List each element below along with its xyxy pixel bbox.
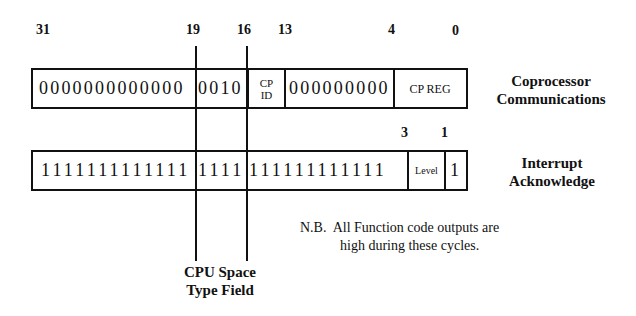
cp-id-line2: ID: [261, 89, 273, 101]
interrupt-acknowledge-label: Interrupt Acknowledge: [488, 154, 616, 190]
cp-id-field: CP ID: [247, 70, 286, 107]
type-field-line-bit16: [246, 46, 248, 261]
bit-number-1: 1: [441, 125, 448, 141]
interrupt-format-box: 1111111111111 1111 111111111111 Level 1: [31, 150, 468, 191]
interrupt-label-line1: Interrupt: [488, 154, 616, 172]
coprocessor-communications-label: Coprocessor Communications: [486, 72, 616, 108]
note-line2: high during these cycles.: [300, 237, 620, 255]
coprocessor-zero-bits: 000000000: [289, 70, 393, 107]
bit-number-4: 4: [388, 22, 395, 38]
bit-number-19: 19: [186, 22, 200, 38]
bit-number-13: 13: [278, 22, 292, 38]
coprocessor-high-bits: 0000000000000: [39, 70, 197, 107]
bit-number-31: 31: [36, 22, 50, 38]
coprocessor-format-box: 0000000000000 0010 CP ID 000000000 CP RE…: [31, 68, 468, 109]
interrupt-type-bits: 1111: [198, 152, 248, 189]
cp-id-line1: CP: [260, 77, 273, 89]
coprocessor-type-bits: 0010: [198, 70, 248, 107]
function-code-note: N.B. All Function code outputs are high …: [300, 219, 620, 255]
type-field-label-line1: CPU Space: [160, 263, 280, 281]
interrupt-label-line2: Acknowledge: [488, 172, 616, 190]
interrupt-high-bits: 1111111111111: [41, 152, 197, 189]
interrupt-last-bit: 1: [446, 152, 465, 189]
bit-number-16: 16: [237, 22, 251, 38]
bit-number-3: 3: [401, 125, 408, 141]
cp-reg-field: CP REG: [393, 70, 465, 107]
cpu-space-type-field-label: CPU Space Type Field: [160, 263, 280, 299]
interrupt-low-bits: 111111111111: [249, 152, 407, 189]
coprocessor-label-line1: Coprocessor: [486, 72, 616, 90]
coprocessor-label-line2: Communications: [486, 90, 616, 108]
type-field-line-bit19: [195, 46, 197, 261]
type-field-label-line2: Type Field: [160, 281, 280, 299]
note-line1: N.B. All Function code outputs are: [300, 219, 620, 237]
level-field: Level: [407, 152, 446, 189]
bit-number-0: 0: [452, 23, 459, 39]
